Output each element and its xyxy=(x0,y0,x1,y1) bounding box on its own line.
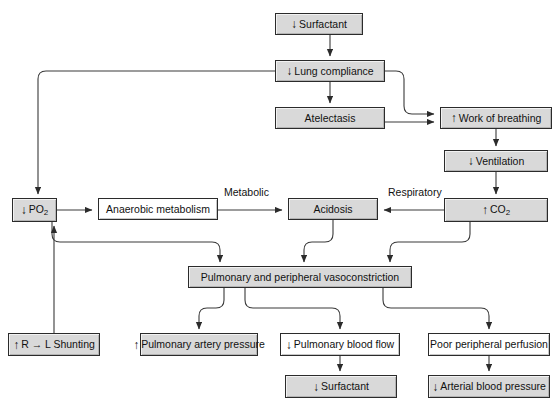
node-acidosis[interactable]: Acidosis xyxy=(288,198,378,220)
edge-co2-to-vasoconstriction xyxy=(390,222,470,262)
node-atelectasis[interactable]: Atelectasis xyxy=(275,107,385,129)
down-arrow-icon: ↓ xyxy=(286,339,292,351)
edge-po2-to-vasoconstriction xyxy=(52,222,220,262)
down-arrow-icon: ↓ xyxy=(432,381,438,393)
node-label: Work of breathing xyxy=(459,113,542,124)
node-ventilation[interactable]: ↓Ventilation xyxy=(444,150,548,172)
node-label: Arterial blood pressure xyxy=(440,381,546,392)
down-arrow-icon: ↓ xyxy=(313,381,319,393)
edge-vaso-to-pbf xyxy=(245,288,340,329)
node-label: Atelectasis xyxy=(305,113,356,124)
node-label: Anaerobic metabolism xyxy=(106,204,210,215)
node-co2[interactable]: ↑CO2 xyxy=(444,198,548,222)
up-arrow-icon: ↑ xyxy=(451,112,457,124)
edge-label-metabolic: Metabolic xyxy=(224,186,269,198)
node-label: Pulmonary artery pressure xyxy=(141,339,265,350)
node-pulmonary-blood-flow[interactable]: ↓Pulmonary blood flow xyxy=(280,333,400,356)
node-pulmonary-artery-pressure[interactable]: ↑Pulmonary artery pressure xyxy=(140,333,258,356)
flowchart-canvas: ↓Surfactant ↓Lung compliance Atelectasis… xyxy=(0,0,558,407)
edge-vaso-to-perfusion xyxy=(383,288,489,329)
down-arrow-icon: ↓ xyxy=(21,204,27,216)
node-poor-peripheral-perfusion[interactable]: Poor peripheral perfusion xyxy=(428,333,550,356)
edge-label-respiratory: Respiratory xyxy=(388,186,442,198)
down-arrow-icon: ↓ xyxy=(291,18,297,30)
node-label: Pulmonary blood flow xyxy=(294,339,394,350)
node-label: Acidosis xyxy=(313,204,352,215)
node-label-po2: PO2 xyxy=(29,204,49,217)
node-surfactant-top[interactable]: ↓Surfactant xyxy=(275,13,363,35)
down-arrow-icon: ↓ xyxy=(468,155,474,167)
node-label: Lung compliance xyxy=(294,66,373,77)
down-arrow-icon: ↓ xyxy=(286,65,292,77)
up-arrow-icon: ↑ xyxy=(482,204,488,216)
node-label: Surfactant xyxy=(321,381,369,392)
node-po2[interactable]: ↓PO2 xyxy=(12,198,57,222)
up-arrow-icon: ↑ xyxy=(133,339,139,351)
edge-acidosis-to-vasoconstriction xyxy=(304,220,333,262)
node-surfactant-bottom[interactable]: ↓Surfactant xyxy=(285,375,397,398)
node-rl-shunting[interactable]: ↑R → L Shunting xyxy=(8,333,100,356)
node-label: Pulmonary and peripheral vasoconstrictio… xyxy=(201,272,399,283)
edge-compliance-to-po2 xyxy=(38,71,275,194)
node-label: R → L Shunting xyxy=(21,339,95,350)
node-anaerobic-metabolism[interactable]: Anaerobic metabolism xyxy=(98,198,218,220)
up-arrow-icon: ↑ xyxy=(13,339,19,351)
node-work-of-breathing[interactable]: ↑Work of breathing xyxy=(440,107,552,129)
node-label: Surfactant xyxy=(299,19,347,30)
node-label: Poor peripheral perfusion xyxy=(430,339,548,350)
node-label: Ventilation xyxy=(476,156,524,167)
edge-compliance-to-work xyxy=(385,71,434,114)
node-vasoconstriction[interactable]: Pulmonary and peripheral vasoconstrictio… xyxy=(188,266,412,288)
node-arterial-blood-pressure[interactable]: ↓Arterial blood pressure xyxy=(428,375,550,398)
node-lung-compliance[interactable]: ↓Lung compliance xyxy=(275,60,385,82)
edge-vaso-to-pa-pressure xyxy=(199,288,224,329)
node-label-co2: CO2 xyxy=(490,204,510,217)
